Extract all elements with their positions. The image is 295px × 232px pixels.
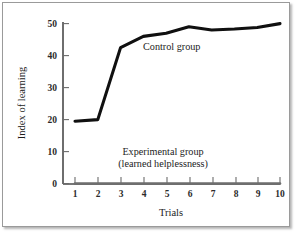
figure-frame: 50 40 30 20 10 0 1 bbox=[2, 2, 290, 227]
x-axis-tick-labels: 1 2 3 4 5 6 7 8 9 10 bbox=[73, 189, 285, 199]
x-tick-label-8: 8 bbox=[234, 189, 239, 199]
y-axis-tick-labels: 50 40 30 20 10 0 bbox=[48, 19, 58, 189]
x-tick-label-3: 3 bbox=[119, 189, 124, 199]
line-chart: 50 40 30 20 10 0 1 bbox=[3, 3, 291, 228]
annotation-experimental-group-line1: Experimental group bbox=[122, 146, 203, 157]
y-tick-label-0: 0 bbox=[52, 179, 57, 189]
y-axis-title: Index of learning bbox=[16, 66, 27, 139]
x-tick-label-2: 2 bbox=[96, 189, 101, 199]
plot-area: 50 40 30 20 10 0 1 bbox=[3, 3, 289, 226]
x-tick-label-1: 1 bbox=[73, 189, 78, 199]
x-tick-label-6: 6 bbox=[188, 189, 193, 199]
y-axis-ticks bbox=[63, 24, 69, 184]
annotation-experimental-group-line2: (learned helplessness) bbox=[118, 158, 208, 170]
y-tick-label-20: 20 bbox=[48, 115, 58, 125]
y-tick-label-50: 50 bbox=[48, 19, 58, 29]
x-axis-title: Trials bbox=[159, 207, 183, 218]
annotation-control-group: Control group bbox=[143, 41, 200, 52]
series-line-control-group bbox=[75, 24, 280, 122]
x-tick-label-10: 10 bbox=[275, 189, 285, 199]
x-tick-label-7: 7 bbox=[211, 189, 216, 199]
y-tick-label-30: 30 bbox=[48, 83, 58, 93]
x-tick-label-4: 4 bbox=[142, 189, 147, 199]
x-tick-label-9: 9 bbox=[256, 189, 261, 199]
x-tick-label-5: 5 bbox=[165, 189, 170, 199]
y-tick-label-40: 40 bbox=[48, 51, 58, 61]
y-tick-label-10: 10 bbox=[48, 147, 58, 157]
